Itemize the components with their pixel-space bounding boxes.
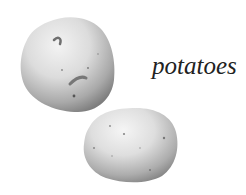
potato-image-bottom — [80, 104, 182, 186]
potatoes-caption: potatoes — [152, 52, 237, 80]
potato-image-top — [18, 14, 120, 116]
